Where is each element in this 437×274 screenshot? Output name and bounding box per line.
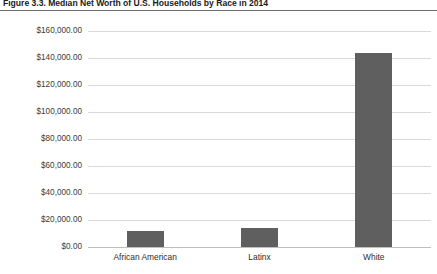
x-tick-label: Latinx xyxy=(248,252,270,262)
figure-container: Figure 3.3. Median Net Worth of U.S. Hou… xyxy=(0,0,437,274)
bar-series xyxy=(88,31,431,247)
x-tick-label: White xyxy=(363,252,384,262)
y-tick-label: $40,000.00 xyxy=(0,189,82,197)
y-tick-label: $140,000.00 xyxy=(0,54,82,62)
y-tick-label: $60,000.00 xyxy=(0,162,82,170)
title-divider xyxy=(0,10,437,11)
gridline xyxy=(88,247,431,248)
bar-white xyxy=(355,53,392,247)
y-tick-label: $80,000.00 xyxy=(0,135,82,143)
x-axis: African AmericanLatinxWhite xyxy=(88,252,431,268)
plot-area xyxy=(88,31,431,247)
y-tick-label: $0.00 xyxy=(0,243,82,251)
bar-african-american xyxy=(127,231,164,247)
y-tick-label: $100,000.00 xyxy=(0,108,82,116)
y-tick-label: $120,000.00 xyxy=(0,81,82,89)
bar-latinx xyxy=(241,228,278,247)
y-axis: $0.00$20,000.00$40,000.00$60,000.00$80,0… xyxy=(0,31,82,247)
y-tick-label: $160,000.00 xyxy=(0,27,82,35)
x-tick-label: African American xyxy=(114,252,177,262)
figure-title: Figure 3.3. Median Net Worth of U.S. Hou… xyxy=(3,0,433,9)
y-tick-label: $20,000.00 xyxy=(0,216,82,224)
